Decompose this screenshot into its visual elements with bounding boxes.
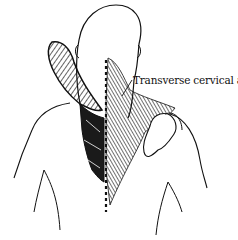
transverse-cervical-label: Transverse cervical a. xyxy=(133,74,238,86)
dark-muscle-left xyxy=(80,104,104,182)
left-shoulder-outline xyxy=(14,103,70,178)
anatomy-illustration: Transverse cervical a. xyxy=(0,0,238,240)
